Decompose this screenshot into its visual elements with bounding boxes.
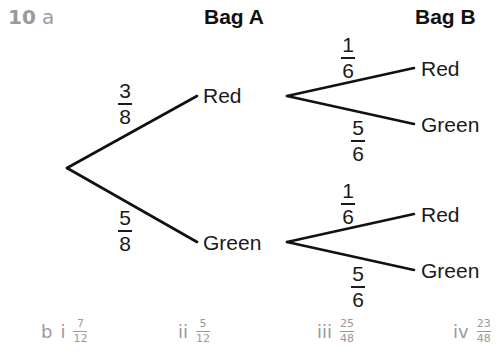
answer-iv: iv 23 48	[453, 318, 491, 345]
node-red-then-green: Green	[421, 113, 479, 137]
node-bag-a-green: Green	[203, 231, 261, 255]
prob-bag-a-green: 5 8	[118, 207, 132, 255]
node-green-then-green: Green	[421, 259, 479, 283]
answer-ii-fraction: 5 12	[196, 318, 210, 345]
question-number: 10	[8, 5, 36, 29]
bag-b-header: Bag B	[415, 5, 476, 29]
answer-i: b i 7 12	[41, 318, 87, 345]
answer-iii-fraction: 25 48	[340, 318, 354, 345]
prob-red-then-red: 1 6	[341, 34, 355, 82]
tree-branches	[0, 0, 496, 357]
node-green-then-red: Red	[421, 203, 460, 227]
prob-green-then-red: 1 6	[341, 180, 355, 228]
question-part-a: a	[42, 5, 54, 29]
answer-ii: ii 5 12	[178, 318, 210, 345]
bag-a-header: Bag A	[204, 5, 264, 29]
branch-bag-a-green	[67, 168, 197, 242]
prob-red-then-green: 5 6	[351, 117, 365, 165]
answer-iii: iii 25 48	[317, 318, 354, 345]
node-red-then-red: Red	[421, 57, 460, 81]
node-bag-a-red: Red	[203, 84, 242, 108]
answer-iv-fraction: 23 48	[477, 318, 491, 345]
prob-bag-a-red: 3 8	[118, 80, 132, 128]
prob-green-then-green: 5 6	[351, 263, 365, 311]
branch-bag-a-red	[67, 96, 197, 168]
answer-i-fraction: 7 12	[73, 318, 87, 345]
